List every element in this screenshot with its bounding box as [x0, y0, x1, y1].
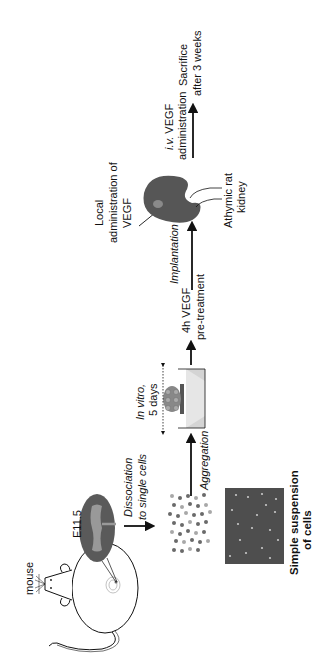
micrograph-cell	[275, 498, 277, 500]
cell-dot	[168, 512, 172, 516]
local-admin-label-3: VEGF	[121, 198, 133, 228]
micrograph-caption-2: of cells	[301, 510, 312, 550]
cell-dot	[172, 548, 176, 552]
micrograph-cell	[269, 529, 271, 531]
sacrifice-label-2: after 3 weeks	[191, 30, 203, 96]
culture-label-2: 5 days	[147, 383, 159, 416]
cell-dot	[194, 496, 198, 500]
cell-dot	[178, 496, 182, 500]
micrograph-cell	[251, 527, 253, 529]
cell-dot	[170, 494, 174, 498]
cell-dot	[188, 520, 192, 524]
cell-dot	[188, 502, 192, 506]
kidney-icon	[143, 176, 222, 223]
cell-dot	[184, 511, 188, 515]
cell-dot	[196, 522, 200, 526]
iv-admin-label-1: i.v. VEGF	[163, 103, 175, 150]
micrograph-cell	[237, 523, 239, 525]
local-admin-label-2: administration of	[107, 161, 119, 243]
iv-admin-rest: VEGF	[163, 103, 175, 136]
micrograph-cell	[261, 493, 263, 495]
cell-dot	[206, 539, 210, 543]
cell-dot	[172, 503, 176, 507]
cell-dot	[192, 513, 196, 517]
micrograph-cell	[229, 555, 231, 557]
micrograph-cell	[247, 496, 249, 498]
cell-dot	[196, 548, 200, 552]
micrograph-cell	[239, 539, 241, 541]
cell-dot	[190, 538, 194, 542]
micrograph-cell	[245, 552, 247, 554]
dissociation-label-2: to single cells	[136, 453, 148, 520]
culture-label-1: In vitro,	[134, 384, 146, 420]
embryo-label: E11.5	[71, 510, 83, 538]
iv-admin-italic: i.v.	[163, 137, 175, 150]
cell-dot	[170, 530, 174, 534]
aggregation-label: Aggregation	[198, 431, 210, 491]
cell-dot	[204, 503, 208, 507]
diagram-canvas: mouse E11.5 Dissociation to single cells…	[0, 0, 312, 655]
cell-dot	[196, 504, 200, 508]
cell-dot	[172, 521, 176, 525]
micrograph-cell	[265, 504, 267, 506]
kidney-label-2: kidney	[235, 181, 247, 213]
culture-dish-icon	[163, 369, 205, 428]
pretreatment-label-2: pre-treatment	[194, 274, 206, 340]
micrograph-cell	[231, 509, 233, 511]
pretreatment-label-1: 4h VEGF	[180, 287, 192, 333]
cell-dot	[202, 530, 206, 534]
micrograph-cell	[274, 511, 276, 513]
cell-dot	[178, 532, 182, 536]
cell-dot	[186, 529, 190, 533]
cell-dot	[204, 520, 208, 524]
cell-dot	[186, 494, 190, 498]
micrograph-cell	[261, 547, 263, 549]
cell-dot	[180, 505, 184, 509]
mouse-label: mouse	[23, 562, 35, 595]
micrograph-image	[225, 488, 284, 564]
micrograph-caption-1: Simple suspension	[288, 470, 300, 575]
mouse-icon	[35, 543, 138, 652]
cell-dot	[174, 539, 178, 543]
cell-dot	[198, 540, 202, 544]
cell-dot	[180, 523, 184, 527]
cell-dot	[176, 514, 180, 518]
kidney-label-1: Athymic rat	[222, 173, 234, 228]
implantation-label: Implantation	[168, 224, 180, 284]
local-admin-label-1: Local	[93, 200, 105, 226]
cell-dot	[180, 549, 184, 553]
iv-admin-label-2: administration	[176, 92, 188, 160]
micrograph-cell	[277, 539, 279, 541]
cell-dot	[202, 493, 206, 497]
micrograph-cell	[256, 514, 258, 516]
micrograph-cell	[269, 557, 271, 559]
cell-dot	[188, 547, 192, 551]
dissociation-label-1: Dissociation	[122, 458, 134, 517]
cell-dot	[200, 512, 204, 516]
cell-dot	[182, 540, 186, 544]
micrograph-cell	[235, 494, 237, 496]
cell-dot	[208, 510, 212, 514]
cell-dots-icon	[168, 493, 212, 553]
sacrifice-label-1: Sacrifice	[177, 44, 189, 86]
cell-dot	[194, 531, 198, 535]
